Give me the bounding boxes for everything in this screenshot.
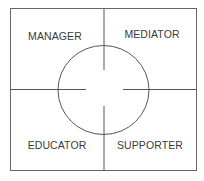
quadrant-label-supporter: SUPPORTER	[117, 140, 183, 151]
quadrant-label-mediator: MEDIATOR	[124, 29, 179, 40]
role-quadrant-diagram: MANAGER MEDIATOR EDUCATOR SUPPORTER	[0, 0, 204, 181]
quadrant-label-manager: MANAGER	[28, 31, 82, 42]
quadrant-label-educator: EDUCATOR	[28, 140, 87, 151]
